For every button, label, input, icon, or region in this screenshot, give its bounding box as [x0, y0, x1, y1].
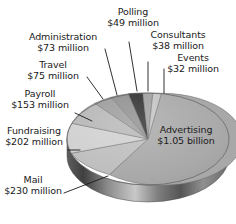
label-polling-name: Polling — [98, 6, 168, 17]
label-travel-name: Travel — [20, 59, 86, 70]
label-polling-value: $49 million — [98, 17, 168, 28]
label-events: Events $32 million — [153, 52, 233, 74]
label-advertising-value: $1.05 billion — [146, 135, 226, 146]
label-advertising: Advertising $1.05 billion — [146, 124, 226, 146]
label-fundraising: Fundraising $202 million — [0, 125, 68, 147]
label-administration-name: Administration — [21, 31, 105, 42]
label-mail-value: $230 million — [0, 185, 66, 196]
label-events-name: Events — [153, 52, 233, 63]
label-administration: Administration $73 million — [21, 31, 105, 53]
label-payroll: Payroll $153 million — [6, 88, 74, 110]
label-travel-value: $75 million — [20, 70, 86, 81]
pie-chart: Polling $49 million Consultants $38 mill… — [0, 0, 236, 224]
label-consultants-name: Consultants — [137, 29, 219, 40]
leader-line-travel — [87, 77, 103, 99]
leader-line-polling — [129, 42, 137, 91]
label-travel: Travel $75 million — [20, 59, 86, 81]
label-fundraising-value: $202 million — [0, 136, 68, 147]
label-payroll-name: Payroll — [6, 88, 74, 99]
label-advertising-name: Advertising — [146, 124, 226, 135]
label-consultants-value: $38 million — [137, 40, 219, 51]
leader-line-administration — [105, 49, 117, 95]
label-mail-name: Mail — [0, 174, 66, 185]
label-fundraising-name: Fundraising — [0, 125, 68, 136]
label-payroll-value: $153 million — [6, 99, 74, 110]
label-mail: Mail $230 million — [0, 174, 66, 196]
label-polling: Polling $49 million — [98, 6, 168, 28]
label-events-value: $32 million — [153, 63, 233, 74]
label-administration-value: $73 million — [21, 42, 105, 53]
label-consultants: Consultants $38 million — [137, 29, 219, 51]
